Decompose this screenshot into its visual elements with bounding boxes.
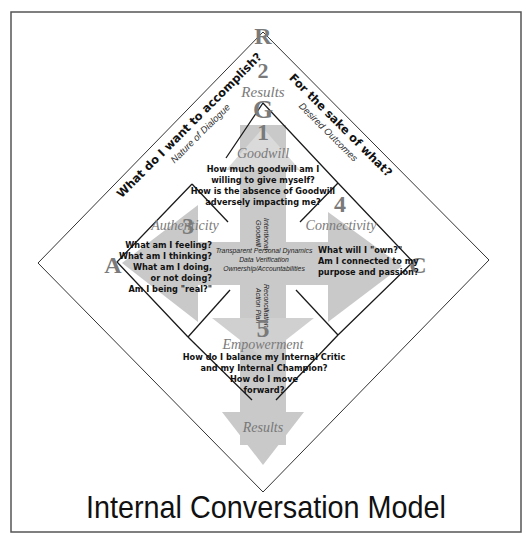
authenticity-question-line: What am I feeling? bbox=[125, 240, 212, 250]
connectivity-label: Connectivity bbox=[306, 218, 378, 233]
authenticity-question-line: or not doing? bbox=[151, 273, 213, 283]
corner-letter-r: R bbox=[254, 23, 272, 49]
empowerment-question-line: and my Internal Champion? bbox=[201, 363, 328, 373]
intentional-goodwill-line: Goodwill bbox=[255, 220, 262, 247]
empowerment-question-line: How do I balance my Internal Critic bbox=[183, 352, 346, 362]
goodwill-question-line: How much goodwill am I bbox=[207, 164, 320, 174]
center-label-line: Ownership/Accountabilities bbox=[223, 265, 305, 273]
center-label-line: Data Verification bbox=[239, 256, 289, 263]
authenticity-question-line: What am I doing, bbox=[133, 262, 212, 272]
goodwill-question-line: How is the absence of Goodwill bbox=[191, 186, 336, 196]
goodwill-number: 1 bbox=[257, 119, 269, 145]
results-label: Results bbox=[240, 84, 284, 100]
connectivity-question-line: purpose and passion? bbox=[318, 267, 419, 277]
diagram-title: Internal Conversation Model bbox=[86, 489, 446, 525]
center-label-line: Transparent Personal Dynamics bbox=[216, 247, 313, 255]
empowerment-question-line: How do I move bbox=[230, 374, 299, 384]
intentional-goodwill-label: Intentional Goodwill bbox=[255, 218, 270, 251]
results-arrow-label: Results bbox=[242, 420, 284, 435]
connectivity-question-line: What will I "own?" bbox=[318, 245, 402, 255]
connectivity-number: 4 bbox=[334, 191, 346, 217]
goodwill-label: Goodwill bbox=[237, 146, 289, 161]
authenticity-label: Authenticity bbox=[150, 218, 219, 233]
goodwill-question-line: adversely impacting me? bbox=[205, 197, 321, 207]
internal-conversation-model-diagram: R G A C 2 Results What do I want to acco… bbox=[0, 0, 531, 546]
goodwill-question-line: willing to give myself? bbox=[211, 175, 315, 185]
empowerment-question-line: forward? bbox=[244, 385, 285, 395]
authenticity-question-line: What am I thinking? bbox=[119, 251, 212, 261]
authenticity-question-line: Am I being "real?" bbox=[128, 284, 212, 294]
empowerment-label: Empowerment bbox=[222, 337, 305, 352]
intentional-goodwill-line: Intentional bbox=[263, 218, 270, 251]
connectivity-question-line: Am I connected to my bbox=[318, 256, 419, 266]
